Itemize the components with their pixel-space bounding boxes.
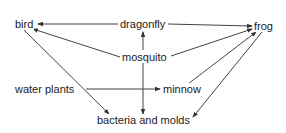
- arrow-dragonfly-to-frog: [168, 24, 252, 26]
- node-minnow: minnow: [162, 83, 202, 95]
- arrow-mosquito-to-bird: [33, 29, 120, 57]
- node-dragonfly: dragonfly: [119, 18, 166, 30]
- arrow-bird-to-bacteria: [24, 30, 109, 114]
- arrow-mosquito-to-frog: [171, 29, 252, 56]
- food-web-diagram: bird dragonfly frog mosquito water plant…: [0, 0, 286, 133]
- node-mosquito: mosquito: [121, 51, 168, 63]
- node-water-plants: water plants: [14, 83, 75, 95]
- node-frog: frog: [253, 20, 274, 32]
- arrow-minnow-to-frog: [188, 32, 256, 84]
- node-bacteria-and-molds: bacteria and molds: [96, 114, 191, 126]
- node-bird: bird: [14, 18, 34, 30]
